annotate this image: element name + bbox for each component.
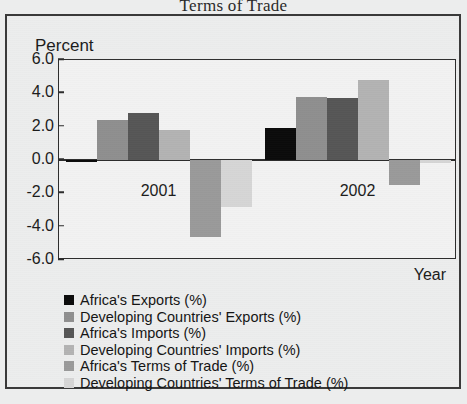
plot-area: 20012002: [58, 59, 456, 259]
y-tick-label: 2.0: [32, 117, 54, 135]
bar: [190, 160, 221, 237]
bar: [97, 120, 128, 160]
legend-label: Developing Countries' Terms of Trade (%): [80, 375, 348, 391]
legend-item[interactable]: Africa's Exports (%): [64, 292, 348, 309]
y-tick-label: 4.0: [32, 83, 54, 101]
legend-label: Africa's Imports (%): [80, 325, 206, 341]
y-tick-mark: [58, 158, 64, 160]
bar: [221, 160, 252, 207]
y-tick-label: 6.0: [32, 50, 54, 68]
bar: [66, 160, 97, 162]
y-tick-label: -6.0: [26, 250, 54, 268]
legend-item[interactable]: Africa's Imports (%): [64, 325, 348, 342]
legend-label: Africa's Terms of Trade (%): [80, 358, 254, 374]
y-tick-label: -4.0: [26, 217, 54, 235]
x-group-label: 2001: [141, 182, 177, 200]
bar: [389, 160, 420, 185]
legend-swatch-icon: [64, 378, 74, 388]
chart-legend: Africa's Exports (%)Developing Countries…: [64, 292, 348, 391]
legend-label: Africa's Exports (%): [80, 292, 207, 308]
y-tick-mark: [58, 125, 64, 127]
legend-item[interactable]: Developing Countries' Exports (%): [64, 309, 348, 326]
legend-item[interactable]: Africa's Terms of Trade (%): [64, 358, 348, 375]
bar: [296, 97, 327, 160]
legend-label: Developing Countries' Imports (%): [80, 342, 300, 358]
y-tick-mark: [58, 258, 64, 260]
legend-swatch-icon: [64, 295, 74, 305]
legend-swatch-icon: [64, 345, 74, 355]
y-tick-mark: [58, 225, 64, 227]
legend-item[interactable]: Developing Countries' Terms of Trade (%): [64, 375, 348, 392]
figure-frame: Percent 6.04.02.00.0-2.0-4.0-6.0 2001200…: [5, 14, 461, 389]
legend-label: Developing Countries' Exports (%): [80, 309, 301, 325]
legend-swatch-icon: [64, 328, 74, 338]
y-axis-tick-labels: 6.04.02.00.0-2.0-4.0-6.0: [7, 59, 54, 259]
bar: [420, 160, 451, 163]
plot-wrapper: 20012002: [58, 59, 456, 259]
y-tick-mark: [58, 92, 64, 94]
y-tick-mark: [58, 192, 64, 194]
y-tick-label: -2.0: [26, 183, 54, 201]
bar: [265, 128, 296, 160]
y-tick-mark: [58, 58, 64, 60]
x-group-label: 2002: [340, 182, 376, 200]
bar: [327, 98, 358, 160]
bar: [159, 130, 190, 160]
bar: [128, 113, 159, 160]
x-axis-label: Year: [414, 266, 446, 284]
y-tick-label: 0.0: [32, 150, 54, 168]
legend-swatch-icon: [64, 361, 74, 371]
legend-item[interactable]: Developing Countries' Imports (%): [64, 342, 348, 359]
bar: [358, 80, 389, 160]
legend-swatch-icon: [64, 312, 74, 322]
